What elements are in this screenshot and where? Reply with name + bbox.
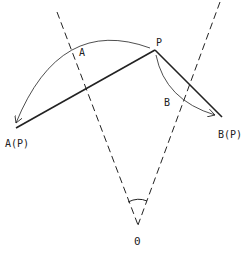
label-a: A — [79, 47, 85, 58]
label-bp: B(P) — [218, 129, 242, 140]
label-p: P — [156, 37, 162, 48]
label-o: 0 — [134, 235, 141, 248]
segment-p-ap — [16, 50, 155, 128]
label-ap: A(P) — [5, 138, 29, 149]
angle-arc — [128, 199, 147, 202]
mirror-line-b — [138, 2, 220, 225]
label-b: B — [164, 97, 170, 108]
diagram: P A B A(P) B(P) 0 — [0, 0, 243, 260]
mirror-line-a — [57, 12, 138, 225]
